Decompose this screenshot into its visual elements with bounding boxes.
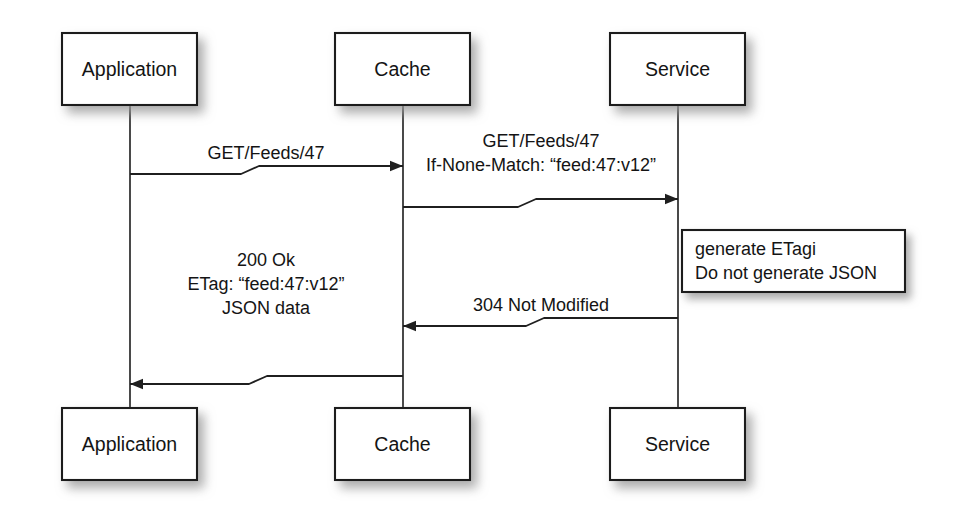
message-label-line: GET/Feeds/47 — [207, 143, 324, 163]
participant-label-cache: Cache — [374, 58, 430, 80]
message-msg-get-feeds-cache-to-service[interactable]: GET/Feeds/47If-None-Match: “feed:47:v12” — [403, 131, 678, 207]
participant-box-service-bottom[interactable]: Service — [610, 408, 745, 480]
message-arrowhead — [390, 161, 403, 171]
message-msg-304-service-to-cache[interactable]: 304 Not Modified — [403, 295, 678, 331]
note-note-service-etag[interactable]: generate ETagiDo not generate JSON — [682, 230, 905, 292]
message-line — [130, 376, 403, 384]
message-label-line: If-None-Match: “feed:47:v12” — [426, 155, 656, 175]
message-label-line: ETag: “feed:47:v12” — [187, 274, 344, 294]
notes-layer: generate ETagiDo not generate JSON — [682, 230, 905, 292]
note-label-line: generate ETagi — [695, 239, 816, 259]
participant-label-application: Application — [82, 58, 177, 80]
participant-box-application-top[interactable]: Application — [62, 33, 197, 105]
participant-label-cache: Cache — [374, 433, 430, 455]
message-msg-200-ok-cache-to-app[interactable]: 200 OkETag: “feed:47:v12”JSON data — [130, 250, 403, 389]
message-line — [130, 166, 403, 174]
participant-label-application: Application — [82, 433, 177, 455]
participant-box-service-top[interactable]: Service — [610, 33, 745, 105]
message-label-line: GET/Feeds/47 — [482, 131, 599, 151]
note-label-line: Do not generate JSON — [695, 263, 877, 283]
participant-box-cache-top[interactable]: Cache — [335, 33, 470, 105]
participant-box-application-bottom[interactable]: Application — [62, 408, 197, 480]
messages-layer: GET/Feeds/47GET/Feeds/47If-None-Match: “… — [130, 131, 678, 389]
message-line — [403, 199, 678, 207]
participant-label-service: Service — [645, 58, 710, 80]
message-label-line: 304 Not Modified — [473, 295, 609, 315]
participant-label-service: Service — [645, 433, 710, 455]
message-arrowhead — [130, 379, 143, 389]
sequence-diagram-canvas: GET/Feeds/47GET/Feeds/47If-None-Match: “… — [0, 0, 957, 522]
message-label-line: JSON data — [222, 298, 311, 318]
message-line — [403, 318, 678, 326]
sequence-diagram-svg: GET/Feeds/47GET/Feeds/47If-None-Match: “… — [0, 0, 957, 522]
message-arrowhead — [665, 194, 678, 204]
message-arrowhead — [403, 321, 416, 331]
participant-box-cache-bottom[interactable]: Cache — [335, 408, 470, 480]
message-msg-get-feeds-app-to-cache[interactable]: GET/Feeds/47 — [130, 143, 403, 174]
message-label-line: 200 Ok — [237, 250, 296, 270]
